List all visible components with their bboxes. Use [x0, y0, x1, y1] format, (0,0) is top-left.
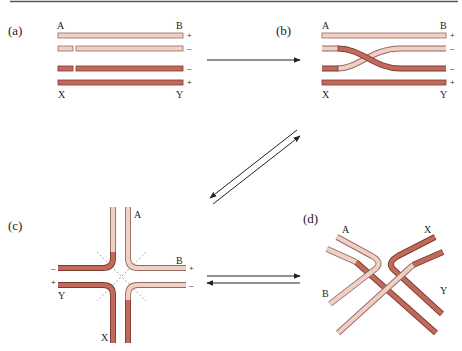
strand-light-top [58, 33, 183, 38]
end-label-Y: Y [440, 89, 447, 100]
arrow-c-to-b [213, 136, 300, 204]
sign: + [187, 31, 192, 40]
sign: + [187, 78, 192, 87]
sign: + [51, 278, 56, 287]
end-label-X: X [58, 89, 66, 100]
end-label-A: A [342, 224, 350, 235]
panel-a: (a) A B + – – + X Y [8, 20, 192, 100]
sign: + [189, 264, 194, 273]
end-label-B: B [176, 255, 183, 266]
sign: – [189, 281, 194, 290]
end-label-A: A [57, 20, 65, 31]
strand-dark-nicked-left [58, 66, 73, 71]
end-label-B: B [440, 20, 447, 31]
end-label-X: X [424, 224, 432, 235]
sign: – [450, 64, 455, 73]
strand-light-top [322, 33, 446, 38]
strand-light-nicked-left [58, 46, 73, 51]
panel-label-a: (a) [8, 23, 22, 38]
strand-dark-bottom [322, 80, 446, 85]
strand-dark-segment [413, 252, 443, 265]
end-label-B: B [322, 288, 329, 299]
strand-light-segment [327, 249, 356, 262]
panel-d: (d) A X B Y [303, 211, 447, 333]
dashed-cut-line [97, 252, 146, 301]
panel-label-b: (b) [276, 23, 291, 38]
end-label-A: A [134, 209, 142, 220]
end-label-B: B [176, 20, 183, 31]
dashed-cut-line [97, 252, 146, 301]
sign: – [450, 44, 455, 53]
strand-dark-nicked-right [76, 66, 183, 71]
end-label-A: A [322, 20, 330, 31]
sign: + [450, 31, 455, 40]
panel-b: (b) A B + – – + X Y [276, 20, 455, 100]
strand-light-A-to-B [330, 237, 379, 304]
arrow-b-to-c [210, 130, 297, 198]
panel-c: (c) A B Y X – + + – [8, 207, 194, 343]
strand-light-nicked-right [76, 46, 183, 51]
sign: + [450, 78, 455, 87]
sign: – [187, 64, 192, 73]
end-label-X: X [322, 89, 330, 100]
panel-label-d: (d) [303, 211, 318, 226]
end-label-Y: Y [440, 285, 447, 296]
sign: – [51, 264, 56, 273]
strand-dark-bottom [58, 80, 183, 85]
holliday-junction-diagram: (a) A B + – – + X Y (b) A B + – [0, 0, 462, 351]
end-label-Y: Y [58, 290, 65, 301]
sign: – [187, 44, 192, 53]
panel-label-c: (c) [8, 218, 22, 233]
end-label-Y: Y [176, 89, 183, 100]
end-label-X: X [101, 332, 109, 343]
